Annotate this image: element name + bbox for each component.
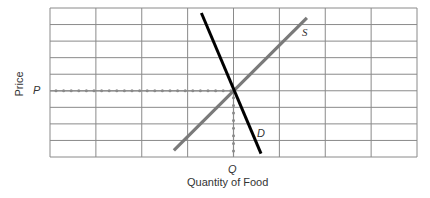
demand-curve [201, 13, 261, 154]
guide-dot [55, 89, 58, 92]
demand-curve-label: D [257, 127, 265, 139]
guide-dot [232, 127, 235, 130]
y-axis-label: Price [13, 71, 25, 96]
guide-dot [62, 89, 65, 92]
guide-dot [161, 89, 164, 92]
guide-dot [138, 89, 141, 92]
guide-dot [232, 96, 235, 99]
guide-dot [131, 89, 134, 92]
guide-dot [108, 89, 111, 92]
guide-dot [123, 89, 126, 92]
guide-dot [207, 89, 210, 92]
guide-dot [169, 89, 172, 92]
guide-dot [100, 89, 103, 92]
guide-dot [232, 134, 235, 137]
supply-curve-label: S [302, 26, 308, 38]
supply-curve [174, 18, 307, 150]
guide-dot [232, 149, 235, 152]
guide-dot [115, 89, 118, 92]
x-axis-label: Quantity of Food [187, 176, 268, 188]
guide-dot [77, 89, 80, 92]
guide-dot [222, 89, 225, 92]
guide-dot [146, 89, 149, 92]
guide-dot [153, 89, 156, 92]
guide-dot [93, 89, 96, 92]
guide-dot [232, 119, 235, 122]
guide-dot [199, 89, 202, 92]
guide-dot [184, 89, 187, 92]
quantity-marker-label: Q [228, 163, 237, 175]
curves [174, 13, 307, 154]
guide-dot [176, 89, 179, 92]
price-marker-label: P [33, 84, 40, 96]
guide-dot [232, 104, 235, 107]
guide-dot [214, 89, 217, 92]
supply-demand-chart [0, 0, 430, 198]
guide-dot [191, 89, 194, 92]
guide-dot [70, 89, 73, 92]
equilibrium-guides [50, 89, 235, 157]
guide-dot [232, 111, 235, 114]
guide-dot [232, 142, 235, 145]
guide-dot [85, 89, 88, 92]
